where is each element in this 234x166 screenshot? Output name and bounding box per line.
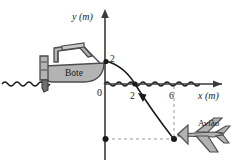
y-axis-label: y (m) — [71, 11, 93, 23]
y-axis-point-marker — [103, 136, 109, 142]
airplane-graphic: Avião — [178, 118, 230, 152]
launch-point-marker — [103, 59, 108, 64]
airplane-nose — [178, 125, 188, 144]
boat-motor — [42, 80, 48, 92]
crossing-point-marker — [132, 81, 137, 86]
landing-point-marker — [171, 136, 177, 142]
y-axis-arrowhead — [101, 9, 109, 18]
x-axis — [105, 81, 222, 88]
x-axis-label: x (m) — [197, 90, 219, 102]
trajectory-curve — [106, 61, 173, 138]
y-tick-label-2: 2 — [110, 54, 115, 64]
x-tick-label-2: 2 — [130, 91, 135, 101]
boat-label: Bote — [65, 68, 83, 78]
x-axis-arrowhead — [213, 81, 222, 88]
origin-label: 0 — [97, 87, 102, 98]
physics-diagram: Bote Avião y (m) x (m) 0 2 2 6 — [0, 0, 234, 166]
airplane-tail-lower — [216, 135, 229, 143]
airplane-label: Avião — [198, 118, 220, 128]
x-tick-label-6: 6 — [169, 91, 174, 101]
boat-bow-post — [40, 56, 48, 80]
diagram-canvas: Bote Avião y (m) x (m) 0 2 2 6 — [0, 0, 234, 166]
airplane-wing-lower — [196, 136, 218, 152]
